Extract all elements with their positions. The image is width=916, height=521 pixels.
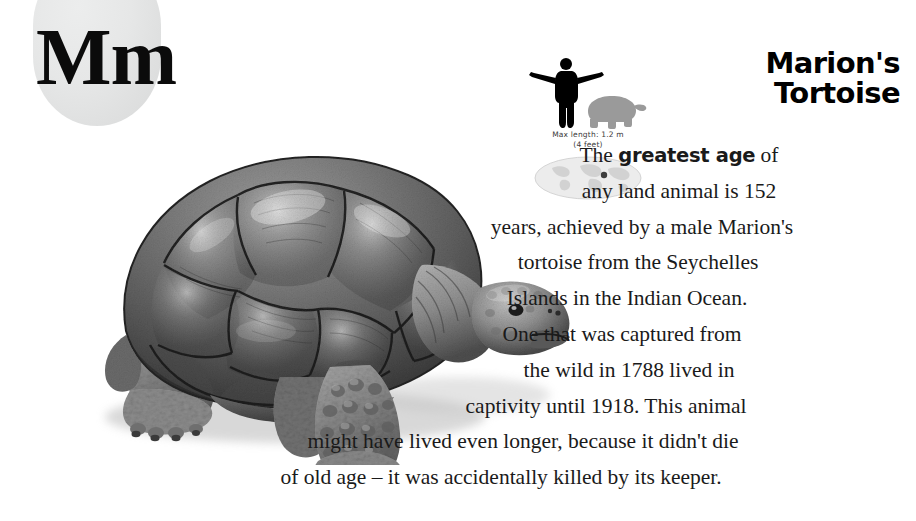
distribution-map [528, 156, 648, 200]
scale-caption-length: Max length: 1.2 m [528, 130, 648, 140]
letter-badge-text: Mm [36, 17, 176, 97]
page-title-line2: Tortoise [774, 76, 900, 110]
tortoise-illustration [30, 95, 610, 465]
map-location-marker [601, 172, 607, 178]
scale-silhouettes [528, 56, 648, 130]
body-line-10: of old age – it was accidentally killed … [0, 460, 916, 496]
page-title-line1: Marion's [765, 46, 900, 80]
page-title: Marion's Tortoise [650, 48, 900, 108]
article-header: Marion's Tortoise [650, 48, 900, 108]
scale-caption-feet: (4 feet) [528, 140, 648, 150]
encyclopedia-page: Mm [0, 0, 916, 521]
tortoise-silhouette-shape [588, 96, 646, 129]
scale-comparison-panel: Max length: 1.2 m (4 feet) [528, 56, 648, 200]
